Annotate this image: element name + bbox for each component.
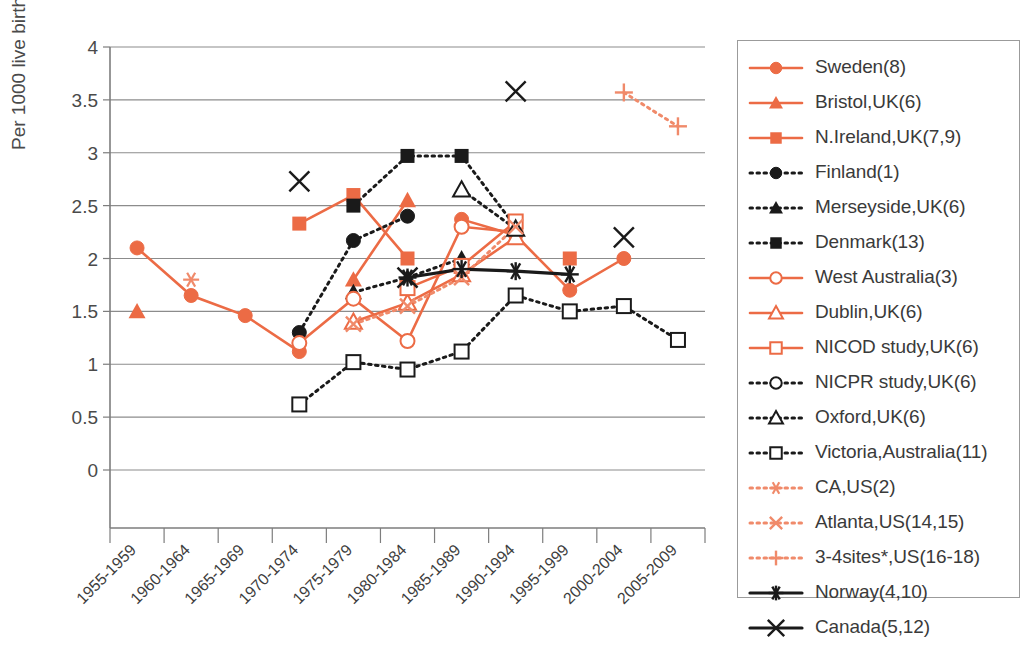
legend-key-square-filled-icon: [747, 127, 805, 147]
y-tick-label: 0.5: [72, 407, 98, 428]
series-line: [353, 156, 515, 227]
legend-key-triangle-filled-icon: [747, 92, 805, 112]
chart-page: Per 1000 live birth 00.511.522.533.54195…: [0, 0, 1025, 661]
y-tick-label: 1: [87, 354, 98, 375]
legend-item-label: Oxford,UK(6): [815, 406, 926, 428]
marker-circle-filled: [238, 309, 252, 323]
series-15: [408, 269, 570, 277]
legend-item[interactable]: Merseyside,UK(6): [738, 189, 1019, 224]
marker-plus: [615, 83, 633, 101]
marker-triangle-filled: [129, 303, 146, 318]
legend-key-circle-filled-icon: [747, 57, 805, 77]
legend-item[interactable]: NICOD study,UK(6): [738, 329, 1019, 364]
marker-circle-filled: [770, 167, 781, 178]
legend-key-svg: [747, 162, 805, 184]
y-tick-label: 1.5: [72, 301, 98, 322]
legend-key-svg: [747, 197, 805, 219]
legend-key-svg: [747, 92, 805, 114]
marker-square-open: [770, 447, 781, 458]
marker-square-filled: [401, 252, 415, 266]
legend-item[interactable]: Victoria,Australia(11): [738, 434, 1019, 469]
legend-key-triangle-open-icon: [747, 407, 805, 427]
legend-key-svg: [747, 337, 805, 359]
marker-asterisk: [183, 273, 199, 287]
legend-key-svg: [747, 232, 805, 254]
legend-key-svg: [747, 512, 805, 534]
legend-key-svg: [747, 267, 805, 289]
y-tick-label: 0: [87, 460, 98, 481]
legend-key-svg: [747, 372, 805, 394]
marker-square-open: [770, 342, 781, 353]
marker-square-open: [617, 299, 631, 313]
marker-square-open: [401, 363, 415, 377]
y-axis-title: Per 1000 live birth: [8, 0, 30, 150]
marker-circle-filled: [346, 234, 360, 248]
marker-x-large: [289, 171, 309, 191]
legend-item-label: Denmark(13): [815, 231, 925, 253]
marker-circle-open: [770, 272, 781, 283]
legend-key-svg: [747, 617, 805, 639]
legend-item[interactable]: Atlanta,US(14,15): [738, 504, 1019, 539]
legend-item[interactable]: Norway(4,10): [738, 574, 1019, 609]
marker-square-open: [671, 333, 685, 347]
legend-item[interactable]: Finland(1): [738, 154, 1019, 189]
legend-key-circle-open-icon: [747, 267, 805, 287]
marker-circle-open: [346, 292, 360, 306]
legend-item-label: Finland(1): [815, 161, 900, 183]
legend-item-label: NICPR study,UK(6): [815, 371, 977, 393]
x-tick-label: 2005-2009: [614, 541, 680, 607]
legend-key-svg: [747, 57, 805, 79]
series-markers-12: [183, 273, 199, 287]
legend-item-label: West Australia(3): [815, 266, 958, 288]
legend-key-asterisk-icon: [747, 477, 805, 497]
legend-item[interactable]: N.Ireland,UK(7,9): [738, 119, 1019, 154]
y-tick-label: 4: [87, 37, 98, 58]
legend-item[interactable]: Bristol,UK(6): [738, 84, 1019, 119]
marker-circle-filled: [401, 209, 415, 223]
marker-square-open: [292, 397, 306, 411]
legend-item[interactable]: Denmark(13): [738, 224, 1019, 259]
marker-square-open: [455, 345, 469, 359]
legend-item[interactable]: Oxford,UK(6): [738, 399, 1019, 434]
legend-item[interactable]: NICPR study,UK(6): [738, 364, 1019, 399]
y-tick-label: 3.5: [72, 90, 98, 111]
legend-item[interactable]: 3-4sites*,US(16-18): [738, 539, 1019, 574]
marker-circle-filled: [563, 283, 577, 297]
marker-star6: [769, 585, 784, 600]
legend-item-label: Victoria,Australia(11): [815, 441, 987, 463]
y-tick-label: 3: [87, 143, 98, 164]
legend-item[interactable]: CA,US(2): [738, 469, 1019, 504]
legend-key-cross-icon: [747, 512, 805, 532]
marker-square-filled: [455, 149, 469, 163]
series-markers-5: [346, 149, 522, 234]
legend-item[interactable]: Dublin,UK(6): [738, 294, 1019, 329]
legend-key-x-large-icon: [747, 617, 805, 637]
legend-item-label: N.Ireland,UK(7,9): [815, 126, 961, 148]
series-line: [137, 248, 299, 352]
legend-key-star6-icon: [747, 582, 805, 602]
legend-key-svg: [747, 582, 805, 604]
legend-item-label: Atlanta,US(14,15): [815, 511, 964, 533]
marker-square-filled: [770, 237, 781, 248]
series-markers-1: [129, 192, 416, 318]
legend-item[interactable]: West Australia(3): [738, 259, 1019, 294]
marker-square-filled: [770, 132, 781, 143]
marker-square-open: [563, 304, 577, 318]
legend-item[interactable]: Sweden(8): [738, 49, 1019, 84]
marker-circle-filled: [770, 62, 781, 73]
series-line: [624, 92, 678, 126]
marker-circle-filled: [130, 241, 144, 255]
legend-key-plus-icon: [747, 547, 805, 567]
legend-key-svg: [747, 302, 805, 324]
marker-asterisk: [769, 482, 782, 493]
legend-item[interactable]: Canada(5,12): [738, 609, 1019, 644]
legend-key-svg: [747, 127, 805, 149]
marker-circle-filled: [617, 252, 631, 266]
series-7: [353, 237, 515, 322]
marker-square-open: [346, 355, 360, 369]
marker-circle-open: [770, 377, 781, 388]
marker-plus: [769, 550, 784, 565]
legend-item-label: NICOD study,UK(6): [815, 336, 979, 358]
legend-key-circle-filled-icon: [747, 162, 805, 182]
legend-item-label: Bristol,UK(6): [815, 91, 921, 113]
